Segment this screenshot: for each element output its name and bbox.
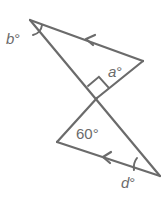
triangle-diagram (0, 0, 165, 199)
geometry-figure: b° a° 60° d° (0, 0, 165, 199)
angle-label-d: d° (121, 175, 135, 190)
angle-label-a: a° (108, 64, 122, 79)
right-angle-marker (87, 77, 109, 89)
angle-label-60: 60° (76, 126, 99, 141)
angle-label-b: b° (6, 31, 20, 46)
